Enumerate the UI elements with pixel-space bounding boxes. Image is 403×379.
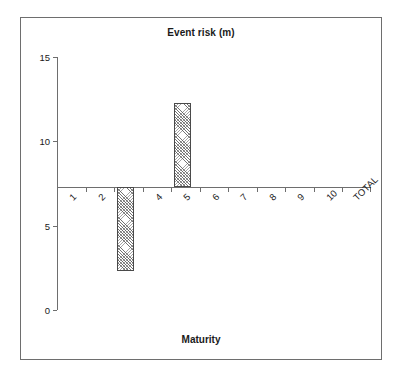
y-axis-line xyxy=(57,57,58,310)
x-tick-mark xyxy=(314,187,315,192)
x-tick-label-6: 6 xyxy=(210,191,222,203)
y-tick-label: 10 xyxy=(39,136,50,147)
x-tick-mark xyxy=(57,187,58,192)
x-tick-label-5: 5 xyxy=(181,191,193,203)
x-tick-mark xyxy=(114,187,115,192)
y-tick-mark xyxy=(53,141,57,142)
x-tick-mark xyxy=(257,187,258,192)
bar-category-5[interactable] xyxy=(174,103,191,187)
x-tick-mark xyxy=(342,187,343,192)
x-tick-mark xyxy=(285,187,286,192)
x-tick-label-10: 10 xyxy=(324,188,339,203)
x-tick-label-9: 9 xyxy=(295,191,307,203)
x-tick-mark xyxy=(228,187,229,192)
y-tick-mark xyxy=(53,57,57,58)
x-tick-label-4: 4 xyxy=(153,191,165,203)
plot-area: 15 10 5 0 −5 −10 −15 xyxy=(57,57,371,310)
y-tick-mark xyxy=(53,226,57,227)
x-tick-mark xyxy=(200,187,201,192)
y-tick-label: 0 xyxy=(45,305,50,316)
x-tick-mark xyxy=(86,187,87,192)
x-tick-label-7: 7 xyxy=(238,191,250,203)
x-tick-label-2: 2 xyxy=(96,191,108,203)
chart-title: Event risk (m) xyxy=(20,27,382,38)
x-axis-title: Maturity xyxy=(20,334,382,345)
x-tick-mark xyxy=(143,187,144,192)
y-tick-label: 15 xyxy=(39,52,50,63)
x-tick-mark xyxy=(171,187,172,192)
x-tick-label-1: 1 xyxy=(67,191,79,203)
y-tick-label: 5 xyxy=(45,220,50,231)
x-axis-zero-line xyxy=(57,187,371,188)
chart-figure: Event risk (m) 15 10 5 0 −5 −10 xyxy=(0,0,403,379)
x-tick-label-8: 8 xyxy=(267,191,279,203)
y-tick-mark xyxy=(53,310,57,311)
bar-category-3[interactable] xyxy=(117,187,134,271)
